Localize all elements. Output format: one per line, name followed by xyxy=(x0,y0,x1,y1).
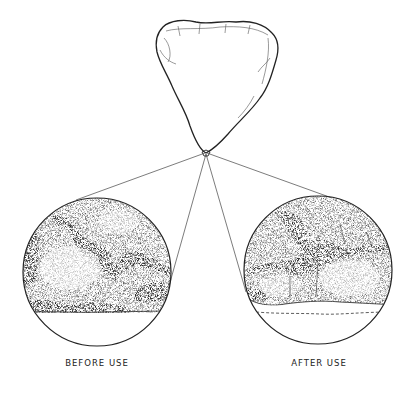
tool-diagram xyxy=(0,0,414,393)
stone-flake xyxy=(156,20,278,156)
after-use-label: AFTER USE xyxy=(291,358,347,368)
before-use-magnified-view xyxy=(20,196,180,353)
after-use-magnified-view xyxy=(240,194,396,350)
before-use-label: BEFORE USE xyxy=(65,358,129,368)
